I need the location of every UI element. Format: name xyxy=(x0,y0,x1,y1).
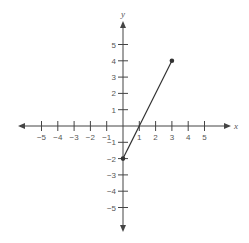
y-axis-up-arrow-icon xyxy=(120,21,126,28)
line-segment xyxy=(123,61,172,159)
y-tick-label: 4 xyxy=(112,57,117,66)
y-axis-down-arrow-icon xyxy=(120,225,126,232)
x-tick-label: −2 xyxy=(86,133,96,142)
x-tick-label: 3 xyxy=(170,133,175,142)
endpoint-dot xyxy=(170,59,175,64)
y-tick-label: 1 xyxy=(112,106,117,115)
y-tick-label: 3 xyxy=(112,73,117,82)
coordinate-plane: xy−5−4−3−2−112345−5−4−3−2−112345 xyxy=(0,0,249,243)
endpoint-dot xyxy=(121,156,126,161)
x-tick-label: 2 xyxy=(153,133,158,142)
y-axis-label: y xyxy=(120,9,125,19)
y-tick-label: −5 xyxy=(107,204,117,213)
x-axis-right-arrow-icon xyxy=(224,123,231,129)
x-tick-label: 5 xyxy=(202,133,207,142)
x-axis-label: x xyxy=(233,121,238,131)
x-axis-left-arrow-icon xyxy=(18,123,25,129)
y-tick-label: −3 xyxy=(107,171,117,180)
y-tick-label: −4 xyxy=(107,187,117,196)
x-tick-label: 1 xyxy=(137,133,142,142)
y-tick-label: 5 xyxy=(112,41,117,50)
x-tick-label: −4 xyxy=(53,133,63,142)
y-tick-label: −1 xyxy=(107,138,117,147)
x-tick-label: −3 xyxy=(70,133,80,142)
x-tick-label: −5 xyxy=(37,133,47,142)
x-tick-label: 4 xyxy=(186,133,191,142)
y-tick-label: 2 xyxy=(112,89,117,98)
y-tick-label: −2 xyxy=(107,155,117,164)
